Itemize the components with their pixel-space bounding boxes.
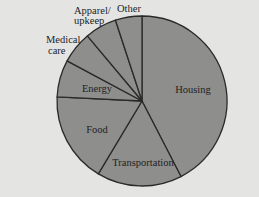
label-housing: Housing	[175, 84, 211, 95]
label-other: Other	[117, 3, 141, 14]
label-medical-care-2: care	[48, 45, 66, 56]
label-food: Food	[86, 124, 108, 135]
pie-chart: Housing Transportation Food Energy Medic…	[0, 0, 259, 197]
label-energy: Energy	[82, 83, 113, 94]
label-apparel-2: upkeep	[74, 15, 104, 26]
label-transportation: Transportation	[112, 157, 174, 168]
label-medical-care-1: Medical	[46, 34, 80, 45]
